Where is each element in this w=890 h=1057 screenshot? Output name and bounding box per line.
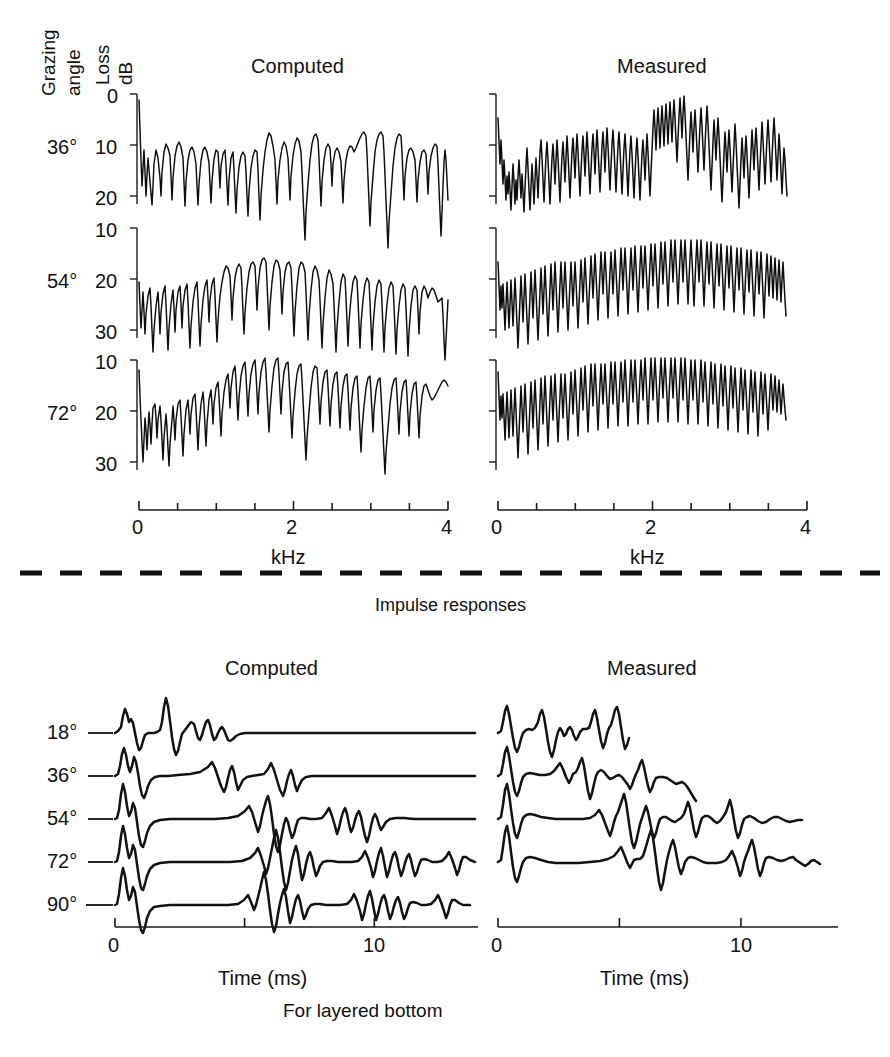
impulse-measured-36 bbox=[498, 747, 696, 801]
impulse-computed-72 bbox=[115, 826, 475, 890]
bottom-xtick-measured-10: 10 bbox=[730, 934, 752, 957]
bottom-xtick-measured-0: 0 bbox=[491, 934, 502, 957]
bottom-xaxis-label-computed: Time (ms) bbox=[218, 967, 307, 990]
impulse-measured-54 bbox=[498, 784, 802, 848]
bottom-xaxis-computed bbox=[115, 918, 478, 927]
impulse-computed-90 bbox=[115, 868, 470, 933]
figure-root: Grazing angle Loss dB Computed Measured … bbox=[0, 0, 890, 1057]
figure-caption-bottom: For layered bottom bbox=[283, 1000, 442, 1022]
impulse-computed-54 bbox=[115, 784, 475, 852]
bottom-xaxis-measured bbox=[498, 918, 838, 927]
bottom-xtick-computed-0: 0 bbox=[108, 934, 119, 957]
impulse-computed-36 bbox=[115, 748, 475, 798]
impulse-measured-72 bbox=[498, 826, 820, 890]
impulse-leader-dashes bbox=[86, 733, 113, 905]
bottom-section-plots bbox=[0, 0, 890, 1057]
impulse-computed-18 bbox=[115, 698, 475, 755]
bottom-xtick-computed-10: 10 bbox=[363, 934, 385, 957]
impulse-measured-18 bbox=[498, 706, 629, 757]
bottom-xaxis-label-measured: Time (ms) bbox=[600, 967, 689, 990]
